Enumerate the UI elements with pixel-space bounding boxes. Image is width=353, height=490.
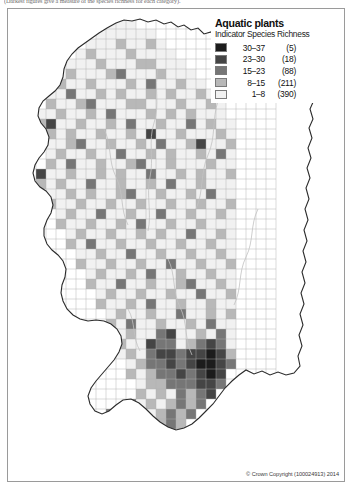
map-cell <box>126 269 136 279</box>
map-cell <box>176 79 186 89</box>
map-cell <box>106 289 116 299</box>
map-cell <box>176 129 186 139</box>
map-cell <box>126 239 136 249</box>
map-cell <box>96 199 106 209</box>
map-cell <box>186 189 196 199</box>
map-cell <box>46 169 56 179</box>
map-cell <box>226 359 236 369</box>
map-cell <box>116 219 126 229</box>
map-cell <box>106 459 116 469</box>
map-cell <box>106 409 116 419</box>
map-cell <box>216 139 226 149</box>
legend-row: 1–8(390) <box>215 88 336 100</box>
map-cell <box>66 139 76 149</box>
map-cell <box>136 149 146 159</box>
map-cell <box>86 279 96 289</box>
map-cell <box>196 309 206 319</box>
map-cell <box>136 79 146 89</box>
map-cell <box>186 179 196 189</box>
map-cell <box>176 369 186 379</box>
map-cell <box>126 449 136 459</box>
map-cell <box>136 299 146 309</box>
legend-count-label: (88) <box>265 66 296 76</box>
map-cell <box>196 129 206 139</box>
map-cell <box>176 189 186 199</box>
map-cell <box>46 159 56 169</box>
map-cell <box>146 289 156 299</box>
map-cell <box>156 109 166 119</box>
map-cell <box>106 239 116 249</box>
map-cell <box>126 129 136 139</box>
map-cell <box>36 139 46 149</box>
map-cell <box>126 429 136 439</box>
map-cell <box>86 439 96 449</box>
map-cell <box>96 139 106 149</box>
map-cell <box>166 119 176 129</box>
map-cell <box>136 449 146 459</box>
map-cell <box>166 109 176 119</box>
map-cell <box>176 269 186 279</box>
map-cell <box>136 239 146 249</box>
map-cell <box>106 49 116 59</box>
legend-range-label: 30–37 <box>232 43 265 53</box>
map-cell <box>126 109 136 119</box>
map-cell <box>66 179 76 189</box>
map-cell <box>196 169 206 179</box>
map-cell <box>216 239 226 249</box>
map-cell <box>66 79 76 89</box>
map-cell <box>196 139 206 149</box>
map-cell <box>126 159 136 169</box>
map-cell <box>86 89 96 99</box>
map-cell <box>146 249 156 259</box>
map-cell <box>136 389 146 399</box>
map-cell <box>186 209 196 219</box>
map-cell <box>186 319 196 329</box>
map-cell <box>216 109 226 119</box>
map-cell <box>146 239 156 249</box>
map-cell <box>156 89 166 99</box>
map-cell <box>156 349 166 359</box>
map-cell <box>156 279 166 289</box>
map-cell <box>166 209 176 219</box>
map-cell <box>116 29 126 39</box>
map-cell <box>96 419 106 429</box>
map-cell <box>136 349 146 359</box>
map-cell <box>76 169 86 179</box>
map-cell <box>96 459 106 469</box>
map-cell <box>116 69 126 79</box>
map-cell <box>56 179 66 189</box>
map-cell <box>96 239 106 249</box>
map-cell <box>216 349 226 359</box>
map-cell <box>126 39 136 49</box>
map-cell <box>226 269 236 279</box>
map-cell <box>126 229 136 239</box>
map-cell <box>166 289 176 299</box>
map-cell <box>106 39 116 49</box>
map-cell <box>206 219 216 229</box>
map-cell <box>126 279 136 289</box>
map-cell <box>196 269 206 279</box>
map-cell <box>76 459 86 469</box>
map-cell <box>136 159 146 169</box>
map-cell <box>226 339 236 349</box>
map-cell <box>96 119 106 129</box>
legend-range-label: 1–8 <box>232 89 265 99</box>
map-cell <box>116 269 126 279</box>
map-cell <box>146 39 156 49</box>
map-cell <box>36 169 46 179</box>
map-cell <box>216 119 226 129</box>
map-cell <box>146 259 156 269</box>
map-cell <box>196 399 206 409</box>
map-cell <box>156 309 166 319</box>
map-cell <box>146 319 156 329</box>
map-cell <box>206 299 216 309</box>
map-cell <box>156 329 166 339</box>
map-cell <box>156 79 166 89</box>
map-cell <box>116 149 126 159</box>
map-cell <box>86 109 96 119</box>
map-cell <box>156 249 166 259</box>
map-cell <box>206 319 216 329</box>
map-cell <box>216 339 226 349</box>
map-cell <box>146 349 156 359</box>
map-cell <box>176 259 186 269</box>
